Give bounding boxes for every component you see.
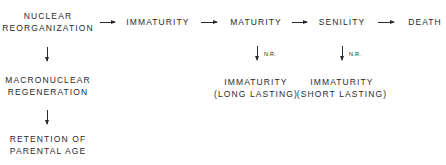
arrow-label-nr: N.R. <box>264 51 276 57</box>
node-macronuclear-regeneration: MACRONUCLEAR REGENERATION <box>5 74 90 98</box>
node-line: SENILITY <box>319 16 366 28</box>
node-line: RETENTION OF <box>10 133 86 145</box>
node-immaturity: IMMATURITY <box>126 16 189 28</box>
arrow-right-icon <box>100 22 115 23</box>
arrow-right-icon <box>201 22 217 23</box>
node-line: IMMATURITY <box>297 76 387 88</box>
node-line: REGENERATION <box>5 86 90 98</box>
arrow-right-icon <box>378 22 394 23</box>
arrow-right-icon <box>292 22 307 23</box>
node-immaturity-long-lasting: IMMATURITY (LONG LASTING) <box>214 76 298 100</box>
node-line: IMMATURITY <box>214 76 298 88</box>
arrow-label-nr: N.R. <box>349 51 361 57</box>
arrow-down-icon <box>47 47 48 61</box>
node-maturity: MATURITY <box>230 16 282 28</box>
node-line: PARENTAL AGE <box>10 145 86 157</box>
node-line: REORGANIZATION <box>2 22 93 34</box>
node-line: DEATH <box>408 16 442 28</box>
node-line: NUCLEAR <box>2 10 93 22</box>
node-immaturity-short-lasting: IMMATURITY (SHORT LASTING) <box>297 76 387 100</box>
node-retention-parental-age: RETENTION OF PARENTAL AGE <box>10 133 86 157</box>
arrow-down-icon <box>257 46 258 60</box>
node-line: MACRONUCLEAR <box>5 74 90 86</box>
node-nuclear-reorganization: NUCLEAR REORGANIZATION <box>2 10 93 34</box>
node-line: MATURITY <box>230 16 282 28</box>
node-senility: SENILITY <box>319 16 366 28</box>
arrow-down-icon <box>342 46 343 60</box>
node-line: (LONG LASTING) <box>214 88 298 100</box>
node-line: IMMATURITY <box>126 16 189 28</box>
node-death: DEATH <box>408 16 442 28</box>
node-line: (SHORT LASTING) <box>297 88 387 100</box>
arrow-down-icon <box>47 110 48 124</box>
